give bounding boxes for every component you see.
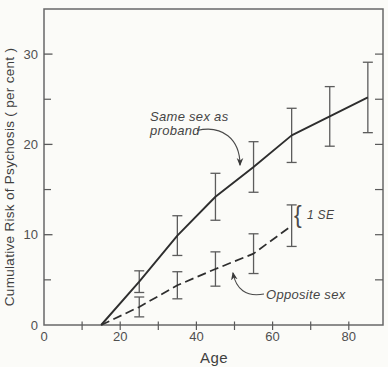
series1-annotation-line1: Same sex as [150,109,229,124]
x-tick-label: 80 [342,329,356,344]
y-tick-label: 20 [24,137,38,152]
se-brace: { [294,202,302,228]
series1-annotation-arrow [197,129,240,165]
series-layer [101,62,373,325]
x-tick-label: 20 [113,329,127,344]
x-tick-label: 40 [189,329,203,344]
x-tick-label: 60 [265,329,279,344]
chart-canvas: 0204060800102030 Age Cumulative Risk of … [0,0,388,367]
series2-annotation-arrow [233,273,264,295]
y-axis-title: Cumulative Risk of Psychosis ( per cent … [2,48,17,306]
x-axis-title: Age [200,349,228,366]
series-line-dashed [101,226,292,325]
y-tick-label: 10 [24,227,38,242]
y-tick-label: 0 [31,318,38,333]
plot-frame [44,9,383,325]
y-tick-label: 30 [24,47,38,62]
se-annotation: 1 SE [307,208,335,222]
series2-annotation: Opposite sex [266,287,346,302]
series1-annotation-line2: proband [149,123,200,138]
x-tick-label: 0 [40,329,47,344]
psychosis-risk-figure: 0204060800102030 Age Cumulative Risk of … [0,0,388,367]
